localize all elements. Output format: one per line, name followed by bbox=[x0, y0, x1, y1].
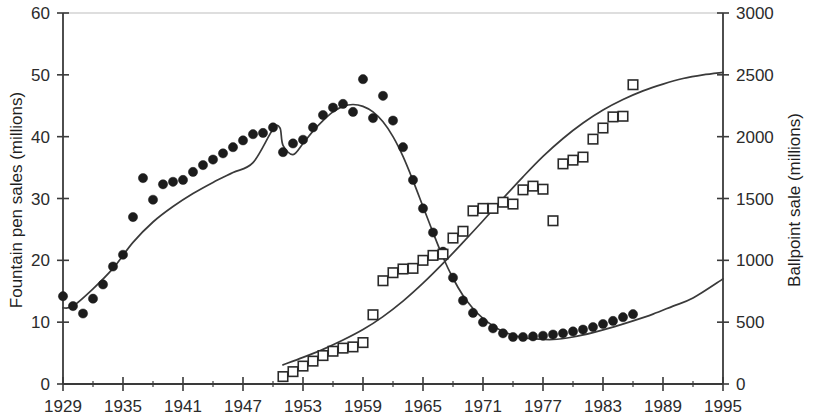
data-point-series-1 bbox=[118, 250, 127, 259]
data-point-series-2 bbox=[508, 199, 518, 209]
data-point-series-1 bbox=[388, 116, 397, 125]
y-right-tick-label: 1000 bbox=[736, 251, 774, 270]
data-point-series-1 bbox=[78, 309, 87, 318]
data-point-series-1 bbox=[198, 161, 207, 170]
data-point-series-2 bbox=[428, 251, 438, 261]
data-point-series-1 bbox=[578, 325, 587, 334]
data-point-series-1 bbox=[178, 175, 187, 184]
data-point-series-2 bbox=[598, 123, 608, 133]
data-point-series-1 bbox=[298, 135, 307, 144]
data-point-series-1 bbox=[138, 174, 147, 183]
data-point-series-2 bbox=[298, 361, 308, 371]
y-axis-left-title: Fountain pen sales (millions) bbox=[7, 92, 26, 308]
data-point-series-2 bbox=[408, 264, 418, 274]
x-tick-label: 1941 bbox=[164, 397, 202, 416]
data-point-series-1 bbox=[228, 143, 237, 152]
data-point-series-2 bbox=[528, 181, 538, 191]
y-left-tick-label: 60 bbox=[31, 4, 50, 23]
y-right-tick-label: 2000 bbox=[736, 128, 774, 147]
data-point-series-1 bbox=[88, 294, 97, 303]
data-point-series-1 bbox=[188, 167, 197, 176]
y-left-tick-label: 50 bbox=[31, 66, 50, 85]
data-point-series-2 bbox=[618, 112, 628, 122]
data-point-series-2 bbox=[478, 204, 488, 214]
x-tick-label: 1995 bbox=[704, 397, 742, 416]
x-tick-label: 1965 bbox=[404, 397, 442, 416]
data-point-series-1 bbox=[568, 327, 577, 336]
data-point-series-1 bbox=[148, 195, 157, 204]
data-point-series-1 bbox=[398, 143, 407, 152]
data-point-series-2 bbox=[498, 197, 508, 207]
data-point-series-1 bbox=[288, 139, 297, 148]
data-point-series-1 bbox=[278, 148, 287, 157]
data-point-series-1 bbox=[498, 329, 507, 338]
data-point-series-1 bbox=[548, 330, 557, 339]
x-tick-label: 1935 bbox=[104, 397, 142, 416]
data-point-series-2 bbox=[418, 256, 428, 266]
data-point-series-1 bbox=[518, 332, 527, 341]
data-point-series-1 bbox=[338, 99, 347, 108]
axes bbox=[63, 13, 723, 384]
x-tick-label: 1989 bbox=[644, 397, 682, 416]
x-tick-label: 1959 bbox=[344, 397, 382, 416]
data-point-series-1 bbox=[598, 319, 607, 328]
y-right-tick-label: 1500 bbox=[736, 190, 774, 209]
data-point-series-1 bbox=[268, 123, 277, 132]
data-point-series-1 bbox=[618, 313, 627, 322]
data-point-series-1 bbox=[358, 75, 367, 84]
y-right-tick-label: 2500 bbox=[736, 66, 774, 85]
data-point-series-1 bbox=[478, 318, 487, 327]
data-point-series-1 bbox=[168, 177, 177, 186]
data-point-series-2 bbox=[348, 342, 358, 352]
data-point-series-1 bbox=[588, 323, 597, 332]
y-left-tick-label: 0 bbox=[41, 375, 50, 394]
data-point-series-2 bbox=[368, 310, 378, 320]
data-point-series-2 bbox=[628, 80, 638, 90]
data-point-series-2 bbox=[388, 268, 398, 278]
data-point-series-1 bbox=[608, 316, 617, 325]
chart-svg: 0102030405060050010001500200025003000192… bbox=[0, 0, 813, 417]
data-point-series-1 bbox=[558, 329, 567, 338]
data-point-series-2 bbox=[488, 204, 498, 214]
y-right-tick-label: 500 bbox=[736, 313, 764, 332]
x-tick-label: 1983 bbox=[584, 397, 622, 416]
data-point-series-1 bbox=[428, 228, 437, 237]
data-point-series-1 bbox=[108, 262, 117, 271]
data-point-series-1 bbox=[208, 155, 217, 164]
data-point-series-1 bbox=[328, 103, 337, 112]
data-point-series-2 bbox=[438, 249, 448, 259]
data-point-series-1 bbox=[218, 149, 227, 158]
data-point-series-1 bbox=[238, 136, 247, 145]
data-point-series-2 bbox=[358, 338, 368, 348]
axis-tick-labels: 0102030405060050010001500200025003000192… bbox=[31, 4, 774, 416]
data-point-series-2 bbox=[318, 351, 328, 361]
data-point-series-1 bbox=[248, 130, 257, 139]
data-point-series-1 bbox=[318, 110, 327, 119]
data-points bbox=[58, 75, 637, 382]
data-point-series-2 bbox=[468, 206, 478, 216]
data-point-series-1 bbox=[468, 308, 477, 317]
data-point-series-1 bbox=[258, 128, 267, 137]
y-axis-right-title: Ballpoint sale (millions) bbox=[785, 113, 804, 287]
data-point-series-2 bbox=[398, 264, 408, 274]
data-point-series-1 bbox=[628, 310, 637, 319]
data-point-series-1 bbox=[448, 273, 457, 282]
data-point-series-2 bbox=[608, 112, 618, 122]
y-left-tick-label: 40 bbox=[31, 128, 50, 147]
data-point-series-1 bbox=[508, 332, 517, 341]
data-point-series-1 bbox=[488, 324, 497, 333]
data-point-series-1 bbox=[408, 175, 417, 184]
data-point-series-1 bbox=[368, 114, 377, 123]
data-point-series-2 bbox=[548, 216, 558, 226]
axis-ticks bbox=[57, 13, 729, 391]
data-point-series-1 bbox=[98, 280, 107, 289]
data-point-series-1 bbox=[128, 212, 137, 221]
x-tick-label: 1971 bbox=[464, 397, 502, 416]
data-point-series-2 bbox=[328, 346, 338, 356]
y-left-tick-label: 10 bbox=[31, 313, 50, 332]
data-point-series-1 bbox=[348, 107, 357, 116]
data-point-series-1 bbox=[308, 123, 317, 132]
data-point-series-2 bbox=[578, 152, 588, 162]
y-left-tick-label: 20 bbox=[31, 251, 50, 270]
data-point-series-2 bbox=[458, 227, 468, 237]
